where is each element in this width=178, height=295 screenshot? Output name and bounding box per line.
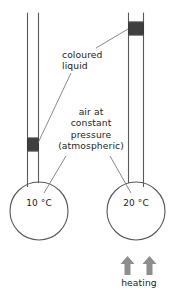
label-coloured-liquid: coloured liquid	[62, 49, 103, 72]
label-temperature-left-flask: 10 °C	[16, 198, 62, 209]
left-liquid-index	[28, 138, 39, 151]
left-flask-bulb	[10, 182, 68, 240]
right-flask-bulb	[107, 182, 165, 240]
label-air-at-constant-pressure: air at constant pressure (atmospheric)	[50, 106, 132, 152]
leader-coloured-liquid-to-right	[96, 29, 128, 48]
right-liquid-index	[129, 22, 144, 35]
heating-arrows	[121, 256, 157, 275]
leader-air-to-right-flask	[110, 156, 131, 193]
label-heating: heating	[108, 277, 170, 288]
air-thermometer-diagram: coloured liquid air at constant pressure…	[0, 0, 178, 295]
heat-arrow-left	[121, 256, 135, 275]
heat-arrow-right	[143, 256, 157, 275]
label-temperature-right-flask: 20 °C	[113, 198, 159, 209]
